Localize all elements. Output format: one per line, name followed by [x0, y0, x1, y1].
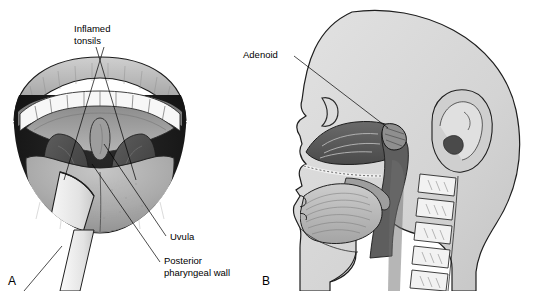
panel-b: Adenoid B — [243, 10, 520, 291]
leader-depressor — [24, 246, 62, 291]
label-posterior-wall-line2: pharyngeal wall — [164, 267, 230, 278]
tongue-depressor-handle — [60, 230, 94, 291]
label-inflamed-tonsils-line2: tonsils — [74, 35, 101, 46]
label-posterior-wall-line1: Posterior — [164, 255, 202, 266]
tongue — [26, 156, 174, 236]
panel-a: Inflamed tonsils Uvula Posterior pharyng… — [8, 23, 230, 291]
panel-b-letter: B — [262, 274, 270, 288]
label-inflamed-tonsils-line1: Inflamed — [74, 23, 110, 34]
panel-a-letter: A — [8, 274, 16, 288]
tongue-b — [300, 184, 382, 244]
label-adenoid: Adenoid — [243, 49, 278, 60]
label-uvula: Uvula — [170, 231, 195, 242]
tonsils-adenoid-figure: Inflamed tonsils Uvula Posterior pharyng… — [0, 0, 540, 291]
